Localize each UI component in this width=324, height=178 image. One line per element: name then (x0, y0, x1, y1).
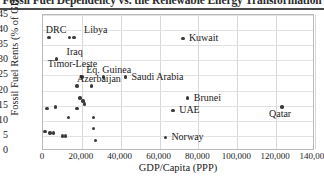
y-tick-label: 40 (0, 24, 8, 34)
data-point (75, 107, 78, 110)
data-point (45, 107, 48, 110)
y-tick-label: 25 (0, 69, 8, 79)
chart-figure: Fossil Fuel Dependency vs. the Renewable… (0, 0, 324, 178)
data-point (54, 105, 57, 108)
data-point (68, 36, 71, 39)
point-label-uae: UAE (179, 105, 200, 115)
point-label-brunei: Brunei (194, 93, 221, 103)
point-label-azerbaijan: Azerbaijan (77, 74, 121, 84)
point-label-iraq: Iraq (67, 47, 83, 57)
gridline-vertical (276, 15, 277, 149)
data-point-kuwait (181, 37, 184, 40)
data-point (67, 116, 70, 119)
point-label-norway: Norway (171, 132, 203, 142)
data-point (48, 131, 51, 134)
y-tick-label: 5 (0, 130, 8, 140)
y-tick-label: 45 (0, 9, 8, 19)
data-point-norway (164, 136, 167, 139)
y-tick-label: 15 (0, 100, 8, 110)
data-point (92, 116, 95, 119)
plot-area: DRCLibyaIraqTimor-LesteEq. GuineaKuwaitS… (42, 14, 314, 150)
point-label-libya: Libya (84, 25, 107, 35)
data-point-drc (47, 36, 50, 39)
gridline-horizontal (43, 121, 313, 122)
chart-title-strip: Fossil Fuel Dependency vs. the Renewable… (0, 0, 324, 8)
gridline-horizontal (43, 91, 313, 92)
chart-title: Fossil Fuel Dependency vs. the Renewable… (0, 0, 324, 6)
data-point-libya (72, 36, 75, 39)
y-tick-label: 35 (0, 39, 8, 49)
point-label-kuwait: Kuwait (189, 33, 218, 43)
gridline-vertical (237, 15, 238, 149)
data-point-uae (171, 109, 174, 112)
point-label-qatar: Qatar (269, 109, 291, 119)
data-point (90, 84, 93, 87)
y-tick-label: 20 (0, 85, 8, 95)
gridline-horizontal (43, 15, 313, 16)
data-point-saudi-arabia (124, 75, 127, 78)
y-tick-label: 0 (0, 145, 8, 155)
data-point (64, 134, 67, 137)
data-point-brunei (186, 96, 189, 99)
title-divider (0, 8, 324, 10)
x-tick-label: 140,000 (284, 151, 324, 161)
data-point-azerbaijan (75, 84, 78, 87)
gridline-vertical (315, 15, 316, 149)
data-point (92, 127, 95, 130)
data-point (43, 130, 46, 133)
y-axis-title: Fossil Fuel Rents (% of GDP) (9, 0, 20, 128)
gridline-vertical (160, 15, 161, 149)
point-label-drc: DRC (46, 25, 67, 35)
x-axis-title: GDP/Capita (PPP) (42, 162, 314, 173)
y-tick-label: 30 (0, 54, 8, 64)
point-label-saudi-arabia: Saudi Arabia (132, 72, 184, 82)
data-point (52, 131, 55, 134)
data-point (94, 139, 97, 142)
y-tick-label: 10 (0, 115, 8, 125)
gridline-horizontal (43, 45, 313, 46)
